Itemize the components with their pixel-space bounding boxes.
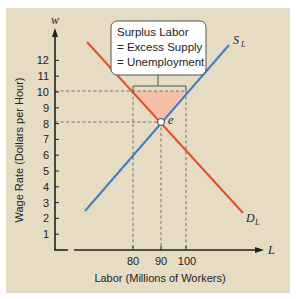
equilibrium-point (158, 119, 165, 126)
x-tick-80: 80 (127, 255, 139, 267)
y-tick-1: 1 (43, 228, 49, 240)
y-tick-6: 6 (43, 149, 49, 161)
annotation-line-3: = Unemployment (117, 56, 205, 68)
svg-text:L: L (254, 218, 260, 227)
svg-text:L: L (240, 40, 246, 49)
svg-text:D: D (245, 211, 255, 225)
x-tick-100: 100 (178, 255, 196, 267)
surplus-annotation-box: Surplus Labor = Excess Supply = Unemploy… (111, 21, 206, 75)
x-axis-symbol: L (267, 243, 275, 257)
y-axis-title: Wage Rate (Dollars per Hour) (13, 77, 25, 222)
y-tick-11: 11 (38, 70, 49, 82)
y-tick-10: 10 (37, 86, 49, 98)
equilibrium-label: e (168, 113, 174, 127)
x-tick-90: 90 (155, 255, 167, 267)
svg-text:S: S (233, 33, 239, 47)
y-tick-4: 4 (43, 181, 49, 193)
y-axis-symbol: w (51, 13, 59, 27)
annotation-line-1: Surplus Labor (117, 26, 189, 38)
annotation-line-2: = Excess Supply (117, 41, 203, 53)
y-tick-2: 2 (43, 212, 49, 224)
x-axis-title: Labor (Millions of Workers) (94, 272, 225, 284)
y-tick-9: 9 (43, 102, 49, 114)
y-tick-12: 12 (37, 54, 49, 66)
y-tick-8: 8 (43, 118, 49, 130)
y-tick-7: 7 (43, 133, 49, 145)
labor-market-chart: w 123456789101112 L 80 90 100 Labor (Mil… (0, 0, 296, 299)
y-tick-5: 5 (43, 165, 49, 177)
y-tick-3: 3 (43, 197, 49, 209)
